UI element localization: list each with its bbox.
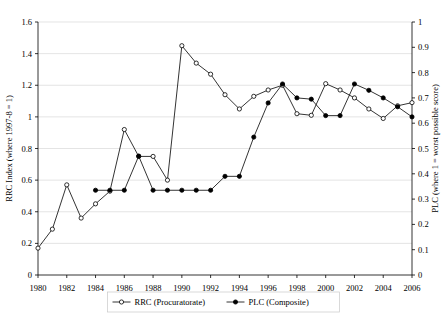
y-tick-label-right: 1 [418,17,422,27]
y-tick-label-left: 1.6 [21,17,32,27]
y-tick-label-right: 0 [418,270,422,280]
y-tick-label-left: 0.2 [21,238,32,248]
y-tick-label-left: 1.4 [21,49,32,59]
data-point [396,105,400,109]
data-point [352,82,356,86]
y-tick-label-right: 0.5 [418,144,429,154]
data-point [165,178,169,182]
data-point [194,61,198,65]
x-tick-label: 1990 [173,283,190,293]
data-point [50,227,54,231]
line-chart: 00.20.40.60.811.21.41.600.10.20.30.40.50… [0,0,447,317]
x-tick-label: 1994 [231,283,249,293]
data-point [324,114,328,118]
x-tick-label: 2002 [346,283,363,293]
data-point [352,96,356,100]
y-tick-label-left: 0 [28,270,32,280]
data-point [36,246,40,250]
data-point [65,183,69,187]
data-point [79,216,83,220]
data-point [194,188,198,192]
x-tick-label: 1986 [116,283,133,293]
y-tick-label-right: 0.1 [418,245,429,255]
data-point [209,72,213,76]
data-point [209,188,213,192]
x-tick-label: 1982 [58,283,75,293]
data-point [223,174,227,178]
data-point [324,82,328,86]
data-point [410,115,414,119]
series-line-0 [38,46,412,248]
x-tick-label: 2004 [375,283,393,293]
data-point [309,113,313,117]
data-point [252,135,256,139]
data-point [180,44,184,48]
data-point [237,174,241,178]
data-point [93,202,97,206]
x-tick-label: 1996 [260,283,277,293]
data-point [381,116,385,120]
y-tick-label-right: 0.3 [418,194,429,204]
x-tick-label: 2000 [317,283,334,293]
data-point [266,101,270,105]
y-tick-label-left: 0.4 [21,207,32,217]
y-tick-label-right: 0.8 [418,68,429,78]
y-tick-label-left: 1 [28,112,32,122]
data-point [122,188,126,192]
data-point [295,96,299,100]
data-point [410,101,414,105]
data-point [381,96,385,100]
data-point [180,188,184,192]
y-tick-label-right: 0.6 [418,118,429,128]
data-point [252,94,256,98]
data-point [137,154,141,158]
y-tick-label-right: 0.4 [418,169,429,179]
data-point [151,188,155,192]
data-point [151,154,155,158]
data-point [223,93,227,97]
legend-label-1: PLC (Composite) [249,297,309,307]
y-tick-label-right: 0.7 [418,93,429,103]
legend-marker-1 [233,300,237,304]
legend-marker-0 [119,300,123,304]
x-tick-label: 1992 [202,283,219,293]
x-tick-label: 1984 [87,283,105,293]
data-point [93,188,97,192]
chart-container: 00.20.40.60.811.21.41.600.10.20.30.40.50… [0,0,447,317]
data-point [165,188,169,192]
data-point [338,88,342,92]
data-point [338,114,342,118]
data-point [280,82,284,86]
x-tick-label: 1988 [145,283,162,293]
data-point [266,88,270,92]
y-tick-label-left: 1.2 [21,80,32,90]
data-point [367,107,371,111]
y-tick-label-right: 0.2 [418,219,429,229]
data-point [122,127,126,131]
x-tick-label: 2006 [404,283,421,293]
x-tick-label: 1980 [30,283,47,293]
legend-label-0: RRC (Procuratorate) [135,297,206,307]
data-point [295,112,299,116]
data-point [367,88,371,92]
y-axis-title-left: RRC Index (where 1997-8 = 1) [4,95,14,202]
x-tick-label: 1998 [288,283,305,293]
y-tick-label-left: 0.6 [21,175,32,185]
y-axis-title-right: PLC (where 1 = worst possible score) [430,84,440,213]
data-point [237,107,241,111]
data-point [309,97,313,101]
y-tick-label-left: 0.8 [21,144,32,154]
data-point [108,188,112,192]
y-tick-label-right: 0.9 [418,42,429,52]
